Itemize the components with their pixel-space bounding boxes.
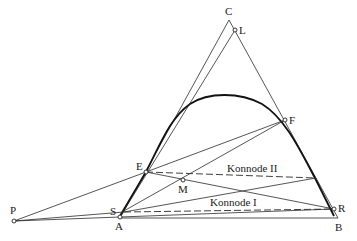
label-konnode-1: Konnode I <box>210 196 257 208</box>
point-p <box>12 219 16 223</box>
point-f <box>283 118 287 122</box>
label-p: P <box>10 204 16 216</box>
label-b: B <box>335 221 342 233</box>
label-m: M <box>178 183 188 195</box>
label-e: E <box>136 160 143 172</box>
label-r: R <box>338 202 346 214</box>
label-f: F <box>289 114 295 126</box>
label-c: C <box>225 5 232 17</box>
line-p-s <box>14 212 124 221</box>
point-l <box>233 28 237 32</box>
line-p-e <box>14 172 146 221</box>
label-l: L <box>239 24 246 36</box>
label-a: A <box>115 220 123 232</box>
line-p-a <box>14 217 120 221</box>
label-konnode-2: Konnode II <box>227 162 278 174</box>
ternary-diagram: C L F E M P S A R B Konnode II Konnode I <box>0 0 357 241</box>
point-m <box>181 178 185 182</box>
point-a <box>118 215 122 219</box>
point-e <box>144 170 148 174</box>
point-r <box>332 207 336 211</box>
label-s: S <box>110 205 116 217</box>
